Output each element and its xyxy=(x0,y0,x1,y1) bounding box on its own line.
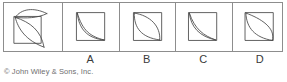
answer-strip xyxy=(3,2,283,52)
option-c-svg xyxy=(176,3,232,51)
option-a-svg xyxy=(63,3,119,51)
option-c-curve-outer xyxy=(189,13,215,40)
copyright-notice: © John Wiley & Sons, Inc. xyxy=(4,67,93,76)
prompt-cell[interactable] xyxy=(4,3,63,51)
option-label-a: A xyxy=(62,52,119,68)
option-b-svg xyxy=(120,3,176,51)
prompt-leaf-right xyxy=(15,17,44,47)
option-a-curve-outer xyxy=(77,13,104,40)
option-label-b: B xyxy=(119,52,176,68)
option-d-svg xyxy=(233,3,287,51)
option-d-cell[interactable] xyxy=(233,3,287,51)
option-label-d: D xyxy=(232,52,287,68)
prompt-upper-curve-bottom xyxy=(15,14,47,18)
prompt-figure-svg xyxy=(4,3,62,51)
option-c-square xyxy=(189,13,217,41)
option-labels: A B C D xyxy=(3,52,283,68)
label-spacer xyxy=(3,52,62,68)
option-a-cell[interactable] xyxy=(63,3,120,51)
prompt-leaf-left xyxy=(15,17,44,47)
option-label-c: C xyxy=(175,52,232,68)
prompt-square xyxy=(14,16,41,43)
option-b-cell[interactable] xyxy=(120,3,177,51)
figure-root: A B C D © John Wiley & Sons, Inc. xyxy=(0,0,286,82)
option-c-cell[interactable] xyxy=(176,3,233,51)
